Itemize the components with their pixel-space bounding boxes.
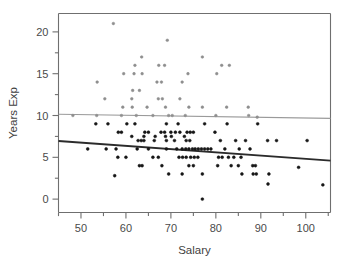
data-point: [189, 131, 192, 134]
data-point: [130, 135, 133, 138]
data-point: [189, 156, 192, 159]
data-point: [215, 114, 218, 117]
data-point: [181, 148, 184, 151]
data-point: [184, 114, 187, 117]
data-point: [141, 164, 144, 167]
data-point: [140, 56, 143, 59]
data-point: [219, 139, 222, 142]
data-point: [163, 131, 166, 134]
data-point: [163, 64, 166, 67]
data-point: [203, 122, 206, 125]
data-point: [174, 131, 177, 134]
data-point: [206, 148, 209, 151]
data-point: [86, 148, 89, 151]
data-point: [240, 156, 243, 159]
data-point: [201, 173, 204, 176]
data-point: [124, 156, 127, 159]
x-tick-label: 80: [210, 222, 222, 234]
data-point: [116, 156, 119, 159]
data-point: [188, 106, 191, 109]
data-point: [72, 114, 75, 117]
data-point: [193, 156, 196, 159]
data-point: [165, 148, 168, 151]
data-point: [178, 131, 181, 134]
data-point: [153, 139, 156, 142]
data-point: [214, 131, 217, 134]
data-point: [151, 156, 154, 159]
data-point: [227, 156, 230, 159]
data-point: [240, 173, 243, 176]
data-point: [133, 72, 136, 75]
data-point: [136, 148, 139, 151]
data-point: [175, 148, 178, 151]
data-point: [221, 156, 224, 159]
data-point: [223, 148, 226, 151]
data-point: [183, 135, 186, 138]
data-point: [201, 106, 204, 109]
data-point: [170, 135, 173, 138]
data-point: [184, 148, 187, 151]
data-point: [234, 139, 237, 142]
data-point: [141, 72, 144, 75]
data-point: [142, 139, 145, 142]
data-point: [181, 156, 184, 159]
data-point: [230, 164, 233, 167]
data-point: [134, 64, 137, 67]
data-point: [146, 106, 149, 109]
data-point: [160, 164, 163, 167]
data-point: [113, 174, 116, 177]
data-point: [167, 173, 170, 176]
data-point: [165, 122, 168, 125]
data-point: [266, 139, 269, 142]
data-point: [267, 183, 270, 186]
data-point: [228, 64, 231, 67]
data-point: [161, 97, 164, 100]
data-point: [225, 106, 228, 109]
data-point: [252, 173, 255, 176]
data-point: [138, 89, 141, 92]
data-point: [157, 64, 160, 67]
data-point: [105, 148, 108, 151]
data-point: [115, 148, 118, 151]
data-point: [238, 148, 241, 151]
data-point: [254, 164, 257, 167]
data-point: [185, 139, 188, 142]
data-point: [200, 148, 203, 151]
data-point: [267, 173, 270, 176]
data-point: [187, 72, 190, 75]
data-point: [121, 106, 124, 109]
data-point: [256, 122, 259, 125]
data-point: [103, 97, 106, 100]
data-point: [209, 148, 212, 151]
data-point: [142, 135, 145, 138]
data-point: [275, 139, 278, 142]
data-point: [171, 114, 174, 117]
data-point: [186, 131, 189, 134]
data-point: [179, 97, 182, 100]
data-point: [169, 131, 172, 134]
data-point: [96, 81, 99, 84]
data-point: [152, 114, 155, 117]
data-point: [256, 116, 259, 119]
data-point: [203, 148, 206, 151]
data-point: [120, 114, 123, 117]
y-tick-label: 5: [42, 151, 48, 163]
data-point: [122, 72, 125, 75]
data-point: [167, 114, 170, 117]
data-point: [197, 148, 200, 151]
data-point: [178, 156, 181, 159]
x-tick-label: 70: [165, 222, 177, 234]
data-point: [306, 139, 309, 142]
data-point: [160, 81, 163, 84]
data-point: [187, 148, 190, 151]
data-point: [95, 114, 98, 117]
data-point: [131, 89, 134, 92]
data-point: [181, 81, 184, 84]
data-point: [156, 81, 159, 84]
x-tick-label: 100: [297, 222, 315, 234]
data-point: [215, 72, 218, 75]
data-point: [226, 122, 229, 125]
y-tick-label: 20: [36, 26, 48, 38]
data-point: [94, 122, 97, 125]
data-point: [201, 56, 204, 59]
